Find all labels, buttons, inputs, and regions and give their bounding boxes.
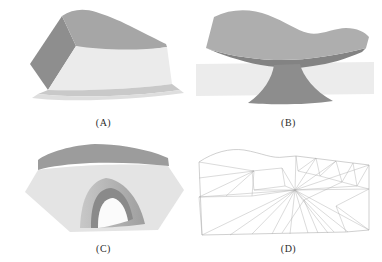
panel-c-figure xyxy=(18,140,186,234)
d-mesh-outline xyxy=(199,150,369,236)
panel-b-label: (B) xyxy=(191,117,382,128)
figure-canvas: (A) (B) (C) (D) xyxy=(0,0,382,262)
panel-c-label: (C) xyxy=(0,243,191,254)
panel-b-figure xyxy=(196,6,376,112)
panel-d-label: (D) xyxy=(191,243,382,254)
panel-d-figure xyxy=(196,144,376,238)
panel-a-figure xyxy=(20,6,188,106)
panel-a-label: (A) xyxy=(0,117,191,128)
b-cap-top-face xyxy=(206,10,369,60)
a-top-face xyxy=(62,10,167,51)
d-mesh-lines xyxy=(199,156,369,235)
